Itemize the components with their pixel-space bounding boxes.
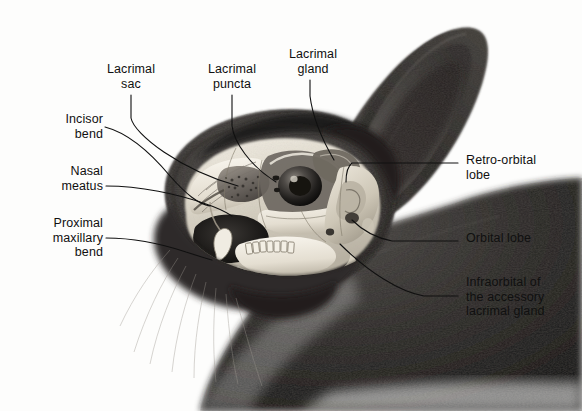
label-lacrimal-gland: Lacrimal gland	[276, 47, 350, 76]
label-orbital-lobe: Orbital lobe	[466, 231, 578, 246]
label-infraorbital-accessory-lacrimal-gland: Infraorbital of the accessory lacrimal g…	[466, 275, 582, 319]
orbital-lobe-mark	[345, 212, 359, 223]
label-incisor-bend: Incisor bend	[18, 112, 103, 141]
label-lacrimal-puncta: Lacrimal puncta	[192, 62, 272, 91]
label-retro-orbital-lobe: Retro-orbital lobe	[466, 153, 578, 182]
label-lacrimal-sac: Lacrimal sac	[92, 62, 170, 91]
label-proximal-maxillary-bend: Proximal maxillary bend	[10, 216, 103, 260]
anatomical-figure: anatomy of the lacrimal system the orbit…	[0, 0, 582, 411]
infraorbital-foramen	[326, 229, 334, 236]
label-nasal-meatus: Nasal meatus	[10, 164, 103, 193]
